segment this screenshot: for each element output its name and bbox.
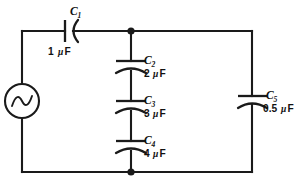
c1-subscript: 1 <box>78 11 82 20</box>
c1-value-unit: F <box>65 46 71 57</box>
c2-value-unit: F <box>160 68 166 79</box>
c5-value-unit: F <box>288 103 294 114</box>
c5-label-group: C 5 <box>266 89 278 104</box>
c1-value-group: 1 μ F <box>48 46 71 57</box>
c4-value-mu: μ <box>152 148 159 159</box>
c5-value-mu: μ <box>280 103 287 114</box>
c2-value-mu: μ <box>152 68 159 79</box>
junction-dot-top <box>127 27 134 34</box>
c4-value-number: 4 <box>144 148 150 159</box>
c1-label-group: C 1 <box>70 5 82 20</box>
c4-value-unit: F <box>160 148 166 159</box>
circuit-schematic-canvas: C 1 1 μ F C 2 2 μ F C 3 3 μ F <box>0 0 298 185</box>
c2-value-group: 2 μ F <box>144 68 166 79</box>
c3-value-number: 3 <box>144 108 150 119</box>
c1-value-number: 1 <box>48 46 54 57</box>
c5-value-number: 0.5 <box>263 103 277 114</box>
c3-value-mu: μ <box>152 108 159 119</box>
c1-value-mu: μ <box>57 46 64 57</box>
c3-value-unit: F <box>160 108 166 119</box>
c3-label-group: C 3 <box>144 94 156 109</box>
c5-value-group: 0.5 μ F <box>263 103 294 114</box>
c4-value-group: 4 μ F <box>144 148 166 159</box>
c2-label-group: C 2 <box>144 54 156 69</box>
c2-value-number: 2 <box>144 68 150 79</box>
c4-label-group: C 4 <box>144 134 156 149</box>
c3-value-group: 3 μ F <box>144 108 166 119</box>
circuit-diagram: C 1 1 μ F C 2 2 μ F C 3 3 μ F <box>0 0 298 185</box>
junction-dot-bottom <box>127 168 134 175</box>
